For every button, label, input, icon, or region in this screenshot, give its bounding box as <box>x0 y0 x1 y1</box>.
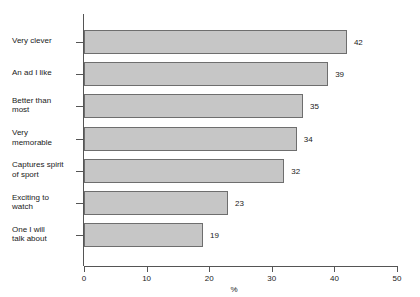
category-label-line: An ad I like <box>12 68 76 78</box>
x-axis-tick-label: 50 <box>393 274 402 283</box>
bar <box>84 159 284 183</box>
category-label: Very clever <box>12 36 76 46</box>
x-axis-tick <box>397 267 398 272</box>
bar <box>84 94 303 118</box>
bar-row: 19 <box>84 223 420 247</box>
bar-value-label: 32 <box>291 166 300 175</box>
bar-chart: 42393534322319 Very cleverAn ad I likeBe… <box>0 0 420 297</box>
y-axis-tick <box>76 139 83 140</box>
y-axis-tick <box>76 203 83 204</box>
x-axis-tick-label: 20 <box>205 274 214 283</box>
bar <box>84 127 297 151</box>
category-label-line: One I will <box>12 225 76 235</box>
bar-row: 35 <box>84 94 420 118</box>
category-label-line: memorable <box>12 138 76 148</box>
category-label: Captures spiritof sport <box>12 160 76 179</box>
y-axis-tick <box>76 235 83 236</box>
bar <box>84 62 328 86</box>
bar-value-label: 42 <box>354 38 363 47</box>
x-axis-tick <box>272 267 273 272</box>
bar-value-label: 39 <box>335 70 344 79</box>
x-axis-tick <box>147 267 148 272</box>
y-axis-tick <box>76 42 83 43</box>
bar-row: 32 <box>84 159 420 183</box>
category-label: Verymemorable <box>12 128 76 147</box>
category-label-line: talk about <box>12 234 76 244</box>
category-label-line: Better than <box>12 96 76 106</box>
bar <box>84 30 347 54</box>
x-axis-tick-label: 40 <box>330 274 339 283</box>
bar-row: 42 <box>84 30 420 54</box>
category-label-line: watch <box>12 202 76 212</box>
bar <box>84 223 203 247</box>
category-label: One I willtalk about <box>12 225 76 244</box>
category-label-line: of sport <box>12 170 76 180</box>
bar <box>84 191 228 215</box>
x-axis-tick <box>84 267 85 272</box>
x-axis-tick-label: 0 <box>82 274 86 283</box>
x-axis-tick <box>209 267 210 272</box>
y-axis-tick <box>76 74 83 75</box>
category-label: An ad I like <box>12 68 76 78</box>
x-axis-line <box>84 266 398 267</box>
bar-value-label: 23 <box>235 199 244 208</box>
x-axis-tick-label: 30 <box>267 274 276 283</box>
x-axis-title-text: % <box>230 285 237 294</box>
category-label-line: Captures spirit <box>12 160 76 170</box>
bar-value-label: 19 <box>210 231 219 240</box>
category-label-line: Exciting to <box>12 193 76 203</box>
category-label-line: Very clever <box>12 36 76 46</box>
bar-row: 23 <box>84 191 420 215</box>
category-label: Better thanmost <box>12 96 76 115</box>
category-label: Exciting towatch <box>12 193 76 212</box>
category-label-line: Very <box>12 128 76 138</box>
x-axis-tick-label: 10 <box>142 274 151 283</box>
bar-row: 39 <box>84 62 420 86</box>
bar-row: 34 <box>84 127 420 151</box>
x-axis-tick <box>334 267 335 272</box>
bar-value-label: 34 <box>304 134 313 143</box>
y-axis-tick <box>76 171 83 172</box>
bar-value-label: 35 <box>310 102 319 111</box>
category-label-line: most <box>12 105 76 115</box>
y-axis-tick <box>76 106 83 107</box>
